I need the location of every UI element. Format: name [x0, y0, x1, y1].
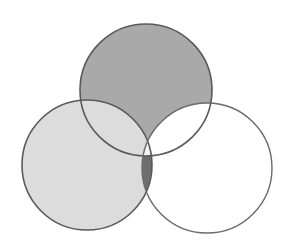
circle-c-right [142, 103, 272, 233]
venn-diagram [0, 0, 297, 245]
